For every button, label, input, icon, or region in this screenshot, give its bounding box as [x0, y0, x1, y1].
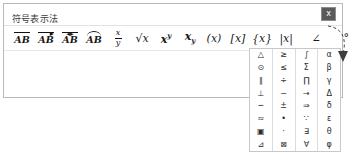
degree-button[interactable]: °: [334, 27, 351, 49]
symbol-cell[interactable]: ≤: [273, 62, 295, 75]
symbol-cell[interactable]: ⇒: [296, 100, 318, 113]
square-root-glyph: √x: [135, 32, 148, 45]
symbol-cell[interactable]: ≥: [273, 49, 295, 62]
symbol-cell[interactable]: ∫: [296, 49, 318, 62]
symbol-cell[interactable]: △: [250, 49, 272, 62]
symbol-cell[interactable]: ∽: [250, 100, 272, 113]
symbol-cell[interactable]: Δ: [318, 87, 340, 100]
angle-icon: ∠: [312, 32, 321, 45]
vector-ab-arc-button[interactable]: AB: [82, 27, 106, 49]
symbol-cell[interactable]: ⊠: [273, 138, 295, 151]
symbol-cell[interactable]: ·: [273, 126, 295, 139]
curly-brace-glyph: {x}: [252, 32, 272, 45]
subscript-button[interactable]: xy: [178, 27, 202, 49]
symbol-column-geometry: △ ⊙ ∥ ⊥ ∽ ≈ ▣ ⊿: [250, 49, 273, 151]
dialog-titlebar: 符号表示法 x: [4, 4, 342, 26]
fraction-button[interactable]: x y: [106, 27, 130, 49]
superscript-glyph: xy: [161, 31, 172, 46]
overbar-icon: [14, 32, 29, 33]
symbol-cell[interactable]: ∃: [296, 126, 318, 139]
degree-icon: °: [343, 32, 349, 45]
symbol-column-math-logic: ∫ Σ ∏ → ⇒ ∵ ∃ ∀: [296, 49, 319, 151]
fraction-numerator: x: [116, 29, 121, 38]
square-bracket-button[interactable]: [x]: [226, 27, 250, 49]
symbol-cell[interactable]: γ: [318, 75, 340, 88]
symbol-cell[interactable]: ∀: [296, 138, 318, 151]
symbol-cell[interactable]: ∵: [296, 113, 318, 126]
parenthesis-button[interactable]: (x): [202, 27, 226, 49]
arc-icon: [87, 31, 100, 37]
symbol-cell[interactable]: ÷: [273, 75, 295, 88]
symbol-cell[interactable]: ⊥: [250, 87, 272, 100]
curly-brace-button[interactable]: {x}: [250, 27, 274, 49]
symbol-toolbar: AB ▸ AB ◂▸ AB AB x: [4, 26, 342, 50]
symbol-cell[interactable]: →: [296, 87, 318, 100]
arrow-right-icon: ▸: [38, 31, 53, 36]
vector-ab-double-arrow-glyph: ◂▸ AB: [62, 31, 77, 46]
symbol-cell[interactable]: ±: [273, 100, 295, 113]
symbol-cell[interactable]: −: [273, 87, 295, 100]
vector-ab-arrow-button[interactable]: ▸ AB: [34, 27, 58, 49]
parenthesis-glyph: (x): [207, 32, 222, 45]
symbol-cell[interactable]: ∏: [296, 75, 318, 88]
superscript-button[interactable]: xy: [154, 27, 178, 49]
symbol-cell[interactable]: ≈: [250, 113, 272, 126]
symbol-cell[interactable]: ▣: [250, 126, 272, 139]
fraction-glyph: x y: [115, 29, 122, 47]
absolute-value-button[interactable]: |x|: [274, 27, 298, 49]
square-root-button[interactable]: √x: [130, 27, 154, 49]
vector-ab-arrow-glyph: ▸ AB: [38, 31, 53, 46]
angle-button[interactable]: ∠: [304, 27, 328, 49]
symbol-cell[interactable]: α: [318, 49, 340, 62]
symbol-cell[interactable]: θ: [318, 126, 340, 139]
symbol-cell[interactable]: ⊿: [250, 138, 272, 151]
symbol-cell[interactable]: β: [318, 62, 340, 75]
absolute-value-glyph: |x|: [279, 32, 293, 45]
vector-ab-bar-glyph: AB: [14, 31, 29, 46]
square-bracket-glyph: [x]: [231, 32, 246, 45]
symbol-cell[interactable]: ∥: [250, 75, 272, 88]
symbol-cell[interactable]: •: [273, 113, 295, 126]
vector-ab-bar-button[interactable]: AB: [10, 27, 34, 49]
symbol-cell[interactable]: δ: [318, 100, 340, 113]
page-title: 符号表示法: [12, 14, 58, 24]
symbol-cell[interactable]: φ: [318, 138, 340, 151]
symbol-column-operators: ≥ ≤ ÷ − ± • · ⊠: [273, 49, 296, 151]
symbol-cell[interactable]: Σ: [296, 62, 318, 75]
close-icon[interactable]: x: [321, 7, 336, 21]
vector-ab-arc-glyph: AB: [86, 31, 101, 46]
subscript-glyph: xy: [185, 30, 196, 45]
symbol-column-greek: α β γ Δ δ ε θ φ: [318, 49, 340, 151]
arrow-both-icon: ◂▸: [62, 31, 77, 36]
symbol-dropdown-panel: △ ⊙ ∥ ⊥ ∽ ≈ ▣ ⊿ ≥ ≤ ÷ − ± • · ⊠ ∫ Σ ∏ → …: [249, 48, 341, 152]
symbol-cell[interactable]: ⊙: [250, 62, 272, 75]
fraction-denominator: y: [116, 39, 121, 48]
symbol-cell[interactable]: ε: [318, 113, 340, 126]
vector-ab-double-arrow-button[interactable]: ◂▸ AB: [58, 27, 82, 49]
